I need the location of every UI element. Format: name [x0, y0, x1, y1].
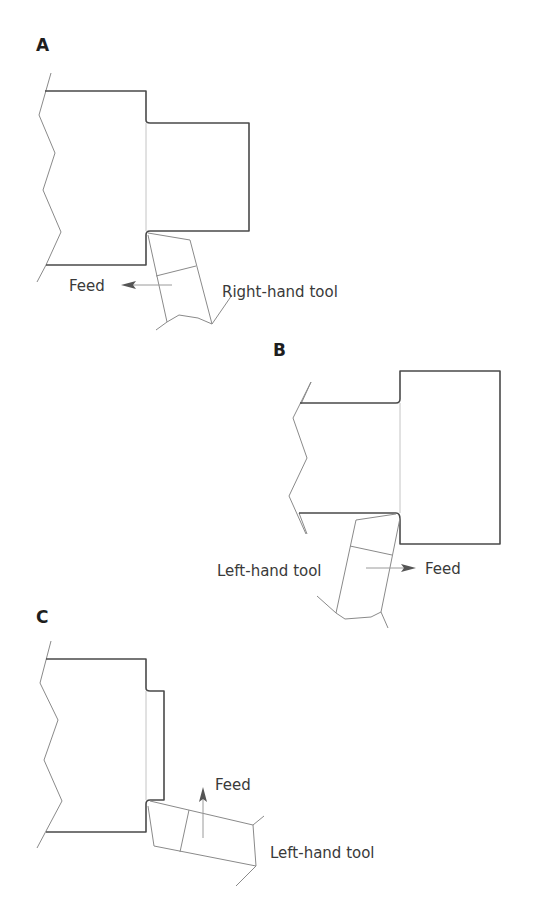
panel-c-break-line: [37, 641, 62, 848]
panel-a-break-line: [37, 73, 61, 282]
panel-b-break-stub-top: [301, 382, 311, 404]
panel-b: B Feed Left-hand tool: [217, 340, 500, 628]
panel-a: A Feed Right-hand tool: [36, 35, 338, 330]
panel-b-feed-label: Feed: [425, 560, 461, 578]
panel-c-letter: C: [36, 607, 48, 627]
panel-b-tool-label: Left-hand tool: [217, 562, 322, 580]
panel-c: C Feed Left-hand tool: [36, 607, 375, 886]
panel-a-right-hand-tool: [148, 233, 232, 330]
panel-b-break-line: [289, 382, 311, 534]
panel-a-letter: A: [36, 35, 50, 55]
panel-b-feed-arrow: [366, 564, 416, 572]
lathe-tool-diagram: A Feed Right-hand tool B: [0, 0, 534, 913]
panel-c-left-hand-tool: [148, 801, 264, 886]
panel-c-feed-label: Feed: [215, 776, 251, 794]
panel-a-feed-label: Feed: [69, 277, 105, 295]
panel-b-left-hand-tool: [317, 514, 400, 628]
panel-c-tool-label: Left-hand tool: [270, 844, 375, 862]
panel-a-feed-arrow: [121, 281, 172, 289]
panel-b-break-stub-bottom: [299, 513, 307, 534]
panel-a-workpiece: [45, 91, 249, 265]
panel-b-letter: B: [273, 340, 286, 360]
panel-a-tool-label: Right-hand tool: [222, 283, 338, 301]
